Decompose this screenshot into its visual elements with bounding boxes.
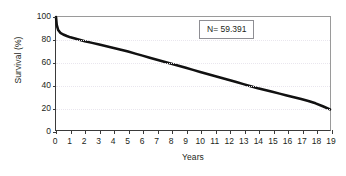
y-axis-tick-label: 80	[29, 35, 51, 44]
x-axis-tick-label: 4	[106, 136, 120, 146]
x-axis-tick-label: 17	[295, 136, 309, 146]
y-axis-title-wrapper: Survival (%)	[9, 0, 27, 148]
x-axis-tick-label: 5	[121, 136, 135, 146]
gridline	[56, 40, 330, 41]
x-axis-tick-label: 11	[208, 136, 222, 146]
x-axis-tick-mark	[85, 130, 86, 134]
y-axis-tick-labels: 020406080100	[26, 0, 51, 176]
x-axis-tick-mark	[56, 130, 57, 134]
x-axis-tick-mark	[303, 130, 304, 134]
x-axis-tick-label: 19	[324, 136, 338, 146]
x-axis-tick-label: 7	[150, 136, 164, 146]
x-axis-tick-mark	[201, 130, 202, 134]
x-axis-tick-label: 14	[251, 136, 265, 146]
x-axis-tick-label: 0	[48, 136, 62, 146]
x-axis-tick-label: 15	[266, 136, 280, 146]
y-axis-title: Survival (%)	[9, 0, 27, 148]
x-axis-tick-label: 13	[237, 136, 251, 146]
gridline	[56, 109, 330, 110]
x-axis-tick-mark	[230, 130, 231, 134]
x-axis-tick-label: 8	[164, 136, 178, 146]
survival-curve-figure: Survival (%) 020406080100 01234567891011…	[0, 0, 346, 176]
x-axis-tick-label: 12	[222, 136, 236, 146]
x-axis-tick-mark	[158, 130, 159, 134]
x-axis-tick-mark	[114, 130, 115, 134]
x-axis-tick-label: 2	[77, 136, 91, 146]
x-axis-tick-label: 16	[280, 136, 294, 146]
y-axis-tick-label: 0	[29, 127, 51, 136]
status-badge-sample-size: N= 59.391	[199, 20, 254, 39]
x-axis-tick-labels: 012345678910111213141516171819	[55, 136, 331, 148]
x-axis-tick-label: 9	[179, 136, 193, 146]
x-axis-tick-mark	[187, 130, 188, 134]
x-axis-tick-mark	[288, 130, 289, 134]
x-axis-tick-mark	[143, 130, 144, 134]
x-axis-tick-mark	[259, 130, 260, 134]
x-axis-tick-mark	[332, 130, 333, 134]
y-axis-tick-label: 100	[29, 12, 51, 21]
y-axis-tick-label: 20	[29, 104, 51, 113]
x-axis-tick-mark	[216, 130, 217, 134]
plot-area	[55, 16, 331, 131]
x-axis-tick-mark	[172, 130, 173, 134]
x-axis-tick-label: 1	[63, 136, 77, 146]
x-axis-tick-label: 18	[309, 136, 323, 146]
x-axis-title: Years	[55, 152, 331, 162]
x-axis-tick-label: 3	[92, 136, 106, 146]
x-axis-tick-label: 6	[135, 136, 149, 146]
x-axis-tick-mark	[100, 130, 101, 134]
y-axis-tick-label: 40	[29, 81, 51, 90]
survival-curve-line	[56, 17, 330, 130]
x-axis-tick-mark	[317, 130, 318, 134]
x-axis-tick-mark	[245, 130, 246, 134]
gridline	[56, 63, 330, 64]
x-axis-tick-mark	[274, 130, 275, 134]
y-axis-tick-mark	[53, 17, 56, 18]
x-axis-tick-mark	[129, 130, 130, 134]
y-axis-tick-label: 60	[29, 58, 51, 67]
x-axis-tick-label: 10	[193, 136, 207, 146]
x-axis-tick-mark	[71, 130, 72, 134]
gridline	[56, 86, 330, 87]
